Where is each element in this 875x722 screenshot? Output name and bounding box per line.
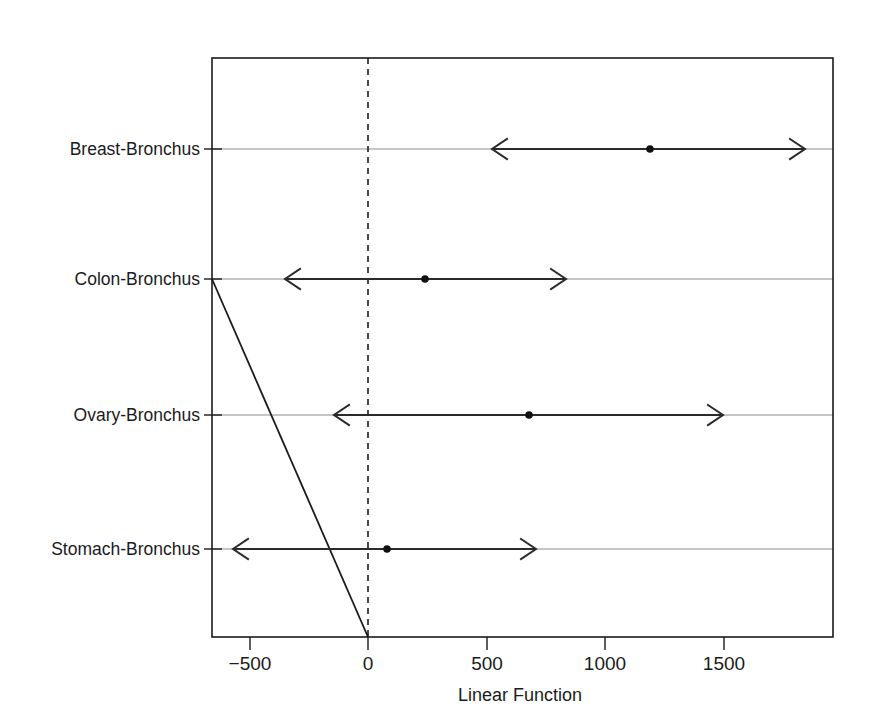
point-marker-colon-bronchus [421,275,429,283]
category-label-ovary-bronchus: Ovary-Bronchus [74,405,201,425]
xtick-label-500: 500 [471,653,503,674]
category-label-colon-bronchus: Colon-Bronchus [75,269,201,289]
forest-plot-svg: Breast-Bronchus Colon-Bronchus Ovary-Bro… [0,0,875,722]
xtick-label-1000: 1000 [584,653,626,674]
figure-background [0,0,875,722]
point-marker-stomach-bronchus [383,545,391,553]
point-marker-ovary-bronchus [525,411,533,419]
category-label-stomach-bronchus: Stomach-Bronchus [51,539,200,559]
x-axis-title: Linear Function [458,685,582,705]
xtick-label--500: −500 [229,653,272,674]
xtick-label-1500: 1500 [703,653,745,674]
xtick-label-0: 0 [363,653,374,674]
chart-figure: Breast-Bronchus Colon-Bronchus Ovary-Bro… [0,0,875,722]
point-marker-breast-bronchus [646,145,654,153]
category-label-breast-bronchus: Breast-Bronchus [70,139,201,159]
